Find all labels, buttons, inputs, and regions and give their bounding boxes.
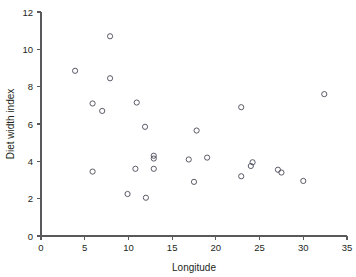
data-point-marker [134,100,139,105]
y-tick-label: 10 [22,44,33,55]
data-point-marker [186,157,191,162]
x-axis-title: Longitude [172,262,216,273]
data-point-marker [239,105,244,110]
x-tick-label: 0 [38,242,43,253]
y-axis-ticks: 024681012 [22,7,41,242]
data-point-marker [301,178,306,183]
data-point-marker [143,195,148,200]
x-tick-label: 35 [342,242,353,253]
data-point-marker [133,166,138,171]
data-point-marker [194,128,199,133]
x-tick-label: 10 [123,242,134,253]
data-point-marker [279,170,284,175]
y-tick-label: 6 [28,119,33,130]
data-point-marker [73,68,78,73]
scatter-chart-figure: 024681012 05101520253035 Longitude Diet … [0,0,356,277]
data-points-group [73,34,327,201]
x-tick-label: 25 [254,242,265,253]
data-point-marker [125,191,130,196]
data-point-marker [205,155,210,160]
x-tick-label: 5 [82,242,87,253]
x-tick-label: 15 [167,242,178,253]
y-tick-label: 12 [22,7,33,18]
y-axis: 024681012 [22,7,41,242]
data-point-marker [151,166,156,171]
y-tick-label: 0 [28,231,33,242]
data-point-marker [191,179,196,184]
y-tick-label: 2 [28,193,33,204]
y-tick-label: 4 [28,156,33,167]
data-point-marker [107,34,112,39]
data-point-marker [239,174,244,179]
y-tick-label: 8 [28,81,33,92]
x-axis-ticks: 05101520253035 [38,236,352,253]
data-point-marker [100,108,105,113]
data-point-marker [322,92,327,97]
data-point-marker [107,76,112,81]
data-point-marker [90,101,95,106]
data-point-marker [142,124,147,129]
x-tick-label: 20 [211,242,222,253]
y-axis-title: Diet width index [5,89,16,160]
x-tick-label: 30 [298,242,309,253]
data-point-marker [90,169,95,174]
scatter-plot-canvas: 024681012 05101520253035 Longitude Diet … [0,0,356,277]
x-axis: 05101520253035 [38,236,352,253]
data-point-marker [275,167,280,172]
